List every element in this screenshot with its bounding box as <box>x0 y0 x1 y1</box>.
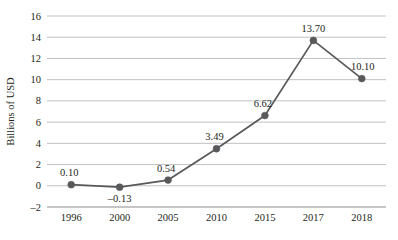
data-point-marker <box>213 145 220 152</box>
y-tick-label: 8 <box>36 95 41 106</box>
data-point-marker <box>358 75 365 82</box>
y-tick-label: 2 <box>36 159 41 170</box>
data-point-marker <box>310 37 317 44</box>
line-chart: 1614121086420–2 199620002005201020152017… <box>0 0 398 240</box>
data-point-marker <box>116 184 123 191</box>
x-tick-label: 2005 <box>158 212 179 223</box>
chart-background <box>0 0 398 240</box>
data-point-label: 10.10 <box>351 61 375 72</box>
y-tick-label: 10 <box>31 74 42 85</box>
data-point-label: –0.13 <box>107 193 132 204</box>
y-tick-label: 16 <box>31 11 42 22</box>
data-point-label: 13.70 <box>302 23 326 34</box>
chart-canvas: 1614121086420–2 199620002005201020152017… <box>0 0 398 240</box>
x-tick-label: 1996 <box>61 212 82 223</box>
x-tick-label: 2010 <box>206 212 227 223</box>
x-tick-label: 2000 <box>109 212 130 223</box>
data-point-label: 0.54 <box>157 163 176 174</box>
data-point-label: 6.62 <box>254 98 272 109</box>
x-tick-label: 2018 <box>351 212 372 223</box>
y-tick-label: 4 <box>36 138 42 149</box>
y-axis-title: Billions of USD <box>5 77 16 146</box>
data-point-marker <box>262 112 269 119</box>
y-tick-label: 12 <box>31 53 42 64</box>
y-axis-title-text: Billions of USD <box>5 77 16 146</box>
x-tick-label: 2015 <box>254 212 275 223</box>
data-point-marker <box>165 177 172 184</box>
data-point-label: 3.49 <box>205 131 223 142</box>
y-tick-label: 6 <box>36 117 41 128</box>
y-tick-label: –2 <box>30 202 42 213</box>
data-point-label: 0.10 <box>60 167 78 178</box>
data-point-marker <box>68 181 75 188</box>
y-tick-label: 14 <box>31 32 42 43</box>
x-tick-label: 2017 <box>303 212 324 223</box>
y-tick-label: 0 <box>36 180 41 191</box>
